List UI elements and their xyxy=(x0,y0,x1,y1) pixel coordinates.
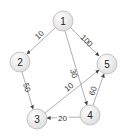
directed-graph: 10 100 30 50 10 20 60 1 2 3 4 xyxy=(0,0,127,138)
edge-4-5: 60 xyxy=(87,74,104,105)
node-3: 3 xyxy=(27,109,47,129)
edge-weight: 10 xyxy=(33,28,46,41)
edge-weight: 10 xyxy=(63,81,76,94)
edge-2-3: 50 xyxy=(21,72,33,109)
edge-1-5: 100 xyxy=(71,28,99,56)
edge-weight: 20 xyxy=(58,114,67,123)
node-2: 2 xyxy=(10,52,30,72)
edge-weight: 50 xyxy=(21,82,32,94)
node-label: 1 xyxy=(60,16,66,27)
node-label: 5 xyxy=(104,59,110,70)
edge-4-3: 20 xyxy=(47,113,80,123)
node-label: 3 xyxy=(34,114,40,125)
edge-weight: 100 xyxy=(79,33,95,49)
node-5: 5 xyxy=(97,54,117,74)
edge-weight: 60 xyxy=(87,85,99,97)
node-label: 2 xyxy=(17,57,23,68)
node-4: 4 xyxy=(80,105,100,125)
node-1: 1 xyxy=(53,11,73,31)
node-label: 4 xyxy=(87,110,93,121)
edge-weight: 30 xyxy=(68,68,79,80)
edge-1-2: 10 xyxy=(27,28,55,54)
